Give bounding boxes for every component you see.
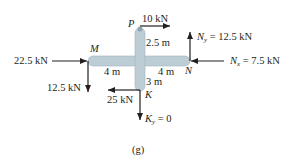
ky-value: = 0	[155, 113, 171, 124]
force-left-horizontal: 22.5 kN	[14, 55, 87, 66]
diagram-canvas: 10 kN P 2.5 m M 22.5 kN 12.5 kN 4 m 4 m …	[0, 0, 298, 167]
cross-member	[88, 27, 190, 92]
figure-label: (g)	[132, 144, 145, 156]
dim-left: 4 m	[104, 66, 120, 77]
point-m-label: M	[89, 43, 100, 54]
force-left-vertical-label: 12.5 kN	[47, 82, 81, 93]
force-nx: Nx = 7.5 kN	[191, 55, 280, 68]
force-top-label: 10 kN	[142, 13, 168, 24]
free-body-diagram: 10 kN P 2.5 m M 22.5 kN 12.5 kN 4 m 4 m …	[0, 0, 298, 167]
svg-text:Ny = 12.5 kN: Ny = 12.5 kN	[196, 31, 253, 44]
svg-text:Ky = 0: Ky = 0	[144, 113, 172, 126]
nx-value: = 7.5 kN	[240, 55, 280, 66]
dim-down: 3 m	[146, 76, 162, 87]
svg-text:Nx = 7.5 kN: Nx = 7.5 kN	[229, 55, 280, 68]
force-top: 10 kN	[140, 13, 170, 26]
ny-value: = 12.5 kN	[207, 31, 252, 42]
dim-mp: 2.5 m	[146, 37, 170, 48]
point-p-label: P	[127, 18, 135, 29]
force-left-horizontal-label: 22.5 kN	[14, 55, 48, 66]
point-p-marker	[138, 27, 143, 32]
point-n-label: N	[184, 65, 193, 76]
force-bottom-horizontal-label: 25 kN	[107, 94, 133, 105]
force-left-vertical: 12.5 kN	[47, 61, 88, 93]
point-k-label: K	[144, 89, 153, 100]
force-bottom-horizontal: 25 kN	[107, 90, 140, 105]
